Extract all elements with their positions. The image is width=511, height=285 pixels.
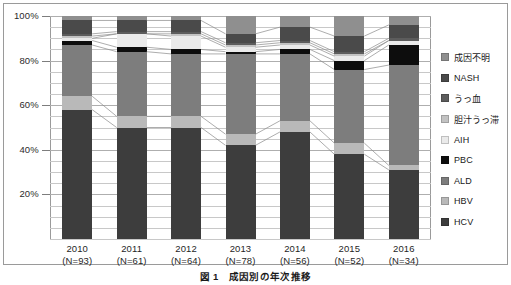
bar-segment-2012-NASH [171,20,201,31]
legend-item-PBC[interactable]: PBC [441,150,511,171]
bar-2010 [62,16,92,239]
x-label-year: 2013 [210,243,272,255]
legend-label: HBV [454,196,473,206]
connector-PBC-2010 [92,41,116,48]
bar-segment-2014-AIH [280,45,310,49]
legend-item-成因不明[interactable]: 成因不明 [441,47,511,68]
connector-NASH-2014 [310,27,334,36]
bar-segment-2016-HBV [389,165,419,169]
bar-segment-2016-うっ血 [389,38,419,40]
bar-segment-2012-成因不明 [171,16,201,20]
bar-segment-2010-うっ血 [62,34,92,36]
connector-胆汁うっ滞-2014 [310,43,334,54]
bar-segment-2012-PBC [171,49,201,53]
x-label-count: (N=64) [155,255,217,267]
legend-item-HBV[interactable]: HBV [441,191,511,212]
legend-label: うっ血 [454,92,481,105]
bar-segment-2011-ALD [117,52,147,117]
bar-segment-2015-胆汁うっ滞 [334,54,364,56]
y-tick-label-80: 80% [0,55,39,66]
bar-segment-2013-HCV [226,145,256,239]
bar-segment-2014-胆汁うっ滞 [280,43,310,45]
chart-legend: 成因不明NASHうっ血胆汁うっ滞AIHPBCALDHBVHCV [441,47,511,232]
y-tick-label-60: 60% [0,99,39,110]
connector-NASH-2013 [256,27,280,34]
x-label-count: (N=78) [210,255,272,267]
bar-segment-2013-ALD [226,54,256,134]
legend-item-胆汁うっ滞[interactable]: 胆汁うっ滞 [441,109,511,130]
bar-segment-2012-胆汁うっ滞 [171,34,201,36]
connector-PBC-2015 [364,45,388,61]
connector-AIH-2011 [147,34,171,36]
legend-swatch-icon [441,197,449,205]
figure-caption: 図 1 成因別の年次推移 [0,269,511,285]
bar-segment-2013-HBV [226,134,256,145]
legend-item-AIH[interactable]: AIH [441,129,511,150]
connector-PBC-2014 [310,49,334,60]
bar-segment-2015-AIH [334,56,364,60]
legend-item-うっ血[interactable]: うっ血 [441,88,511,109]
connector-HBV-2014 [310,121,334,143]
legend-swatch-icon [441,115,449,123]
legend-swatch-icon [441,156,449,164]
bar-segment-2015-ALD [334,70,364,144]
x-tick-label-2016: 2016(N=34) [373,243,435,267]
bar-segment-2012-ALD [171,54,201,116]
bar-2015 [334,16,364,239]
legend-item-HCV[interactable]: HCV [441,212,511,233]
bar-segment-2010-AIH [62,38,92,40]
bar-segment-2010-HBV [62,96,92,109]
bar-segment-2015-PBC [334,61,364,70]
bar-segment-2015-NASH [334,36,364,52]
connector-胆汁うっ滞-2013 [256,43,280,45]
legend-swatch-icon [441,177,449,185]
x-label-count: (N=56) [264,255,326,267]
connector-ALD-2010 [92,45,116,52]
legend-item-NASH[interactable]: NASH [441,68,511,89]
x-tick-label-2015: 2015(N=52) [318,243,380,267]
bar-segment-2010-NASH [62,20,92,33]
x-label-year: 2011 [101,243,163,255]
bar-segment-2010-ALD [62,45,92,96]
gridline-0 [50,239,431,240]
connector-ALD-2015 [364,65,388,69]
connector-胆汁うっ滞-2012 [201,34,225,45]
bar-segment-2015-成因不明 [334,16,364,36]
connector-HBV-2012 [201,116,225,134]
y-tick-label-40: 40% [0,144,39,155]
legend-label: 成因不明 [454,51,490,64]
connector-ALD-2011 [147,52,171,54]
bar-segment-2014-HBV [280,121,310,132]
bar-segment-2012-HBV [171,116,201,127]
legend-item-ALD[interactable]: ALD [441,171,511,192]
bar-segment-2013-NASH [226,34,256,43]
bar-2013 [226,16,256,239]
bar-segment-2010-PBC [62,41,92,45]
bar-segment-2014-NASH [280,27,310,40]
y-tick-label-100: 100% [0,10,39,21]
bar-segment-2012-うっ血 [171,32,201,34]
x-tick-label-2010: 2010(N=93) [46,243,108,267]
bar-2011 [117,16,147,239]
figure-container: 20%40%60%80%100% 2010(N=93)2011(N=61)201… [0,0,511,285]
chart-plot-area [50,16,431,240]
bar-segment-2010-成因不明 [62,16,92,20]
bar-segment-2013-PBC [226,52,256,54]
bar-2016 [389,16,419,239]
figure-frame: 20%40%60%80%100% 2010(N=93)2011(N=61)201… [3,3,508,265]
bar-segment-2016-AIH [389,41,419,45]
connector-AIH-2015 [364,41,388,57]
y-tick-mark-60 [42,105,50,106]
connector-HCV-2015 [364,154,388,170]
x-label-year: 2015 [318,243,380,255]
x-label-year: 2014 [264,243,326,255]
legend-label: NASH [454,73,479,83]
connector-AIH-2013 [256,45,280,47]
bar-segment-2013-成因不明 [226,16,256,34]
connector-ALD-2014 [310,54,334,70]
x-label-count: (N=34) [373,255,435,267]
connector-HCV-2012 [201,128,225,146]
connector-AIH-2014 [310,45,334,56]
legend-swatch-icon [441,74,449,82]
legend-swatch-icon [441,218,449,226]
